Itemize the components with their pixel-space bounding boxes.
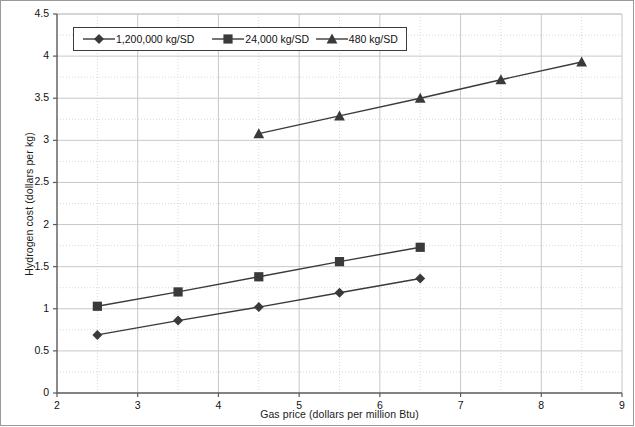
x-tick-label: 3 — [123, 399, 153, 411]
y-tick-label: 1.5 — [9, 260, 49, 272]
x-tick-label: 5 — [284, 399, 314, 411]
plot-canvas — [0, 0, 635, 427]
y-tick-label: 4.5 — [9, 7, 49, 19]
legend-label: 24,000 kg/SD — [245, 33, 309, 45]
series-1 — [93, 243, 425, 311]
square-marker-icon — [211, 32, 245, 46]
legend: 1,200,000 kg/SD24,000 kg/SD480 kg/SD — [73, 27, 407, 51]
legend-item-2: 480 kg/SD — [315, 28, 398, 50]
chart-container: Hydrogen cost (dollars per kg) Gas price… — [0, 0, 635, 427]
y-tick-label: 0 — [9, 386, 49, 398]
x-tick-label: 7 — [446, 399, 476, 411]
x-tick-label: 8 — [526, 399, 556, 411]
y-tick-label: 2.5 — [9, 175, 49, 187]
x-tick-label: 2 — [42, 399, 72, 411]
x-tick-label: 9 — [607, 399, 635, 411]
x-tick-label: 4 — [203, 399, 233, 411]
y-tick-label: 3 — [9, 133, 49, 145]
y-tick-label: 1 — [9, 302, 49, 314]
triangle-marker-icon — [315, 32, 349, 46]
legend-label: 480 kg/SD — [349, 33, 398, 45]
x-tick-label: 6 — [365, 399, 395, 411]
y-tick-label: 4 — [9, 49, 49, 61]
legend-item-0: 1,200,000 kg/SD — [82, 28, 211, 50]
y-tick-label: 0.5 — [9, 344, 49, 356]
legend-item-1: 24,000 kg/SD — [211, 28, 314, 50]
y-tick-label: 3.5 — [9, 91, 49, 103]
y-axis-title: Hydrogen cost (dollars per kg) — [23, 94, 35, 314]
y-tick-label: 2 — [9, 218, 49, 230]
legend-label: 1,200,000 kg/SD — [116, 33, 194, 45]
diamond-marker-icon — [82, 32, 116, 46]
